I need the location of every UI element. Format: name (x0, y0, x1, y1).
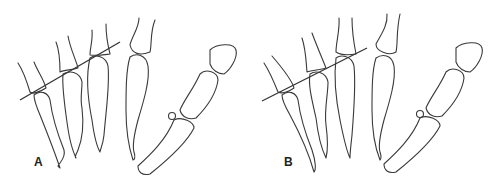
reference-line (20, 42, 120, 100)
sesamoid-bone (169, 113, 176, 120)
panel-a: A (0, 0, 250, 184)
panel-label-b: B (284, 155, 293, 169)
sesamoid-bone (417, 111, 424, 118)
panel-b: B (250, 0, 499, 184)
panel-label-a: A (34, 155, 43, 169)
reference-line (262, 48, 367, 101)
